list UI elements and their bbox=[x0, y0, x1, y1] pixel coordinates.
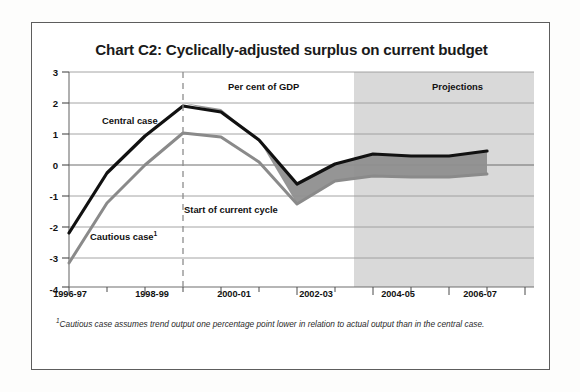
screenshot-root: Chart C2: Cyclically-adjusted surplus on… bbox=[0, 0, 580, 392]
annotation-cautious-case: Cautious case1 bbox=[90, 230, 157, 242]
chart-figure-frame: Chart C2: Cyclically-adjusted surplus on… bbox=[31, 22, 550, 370]
chart-footnote: 1Cautious case assumes trend output one … bbox=[56, 317, 534, 330]
y-axis-ticks bbox=[62, 72, 69, 287]
annotation-start-of-current-cycle: Start of current cycle bbox=[184, 204, 278, 215]
annotation-projections: Projections bbox=[432, 81, 483, 92]
footnote-text: Cautious case assumes trend output one p… bbox=[60, 319, 485, 329]
projections-region bbox=[354, 72, 534, 287]
annotation-central-case: Central case bbox=[102, 115, 158, 126]
annotation-cautious-case-footnote-marker: 1 bbox=[154, 230, 158, 237]
chart-plot-area bbox=[32, 23, 551, 313]
annotation-cautious-case-label: Cautious case bbox=[90, 231, 154, 242]
annotation-per-cent-of-gdp: Per cent of GDP bbox=[228, 81, 299, 92]
x-axis-ticks bbox=[69, 287, 525, 295]
